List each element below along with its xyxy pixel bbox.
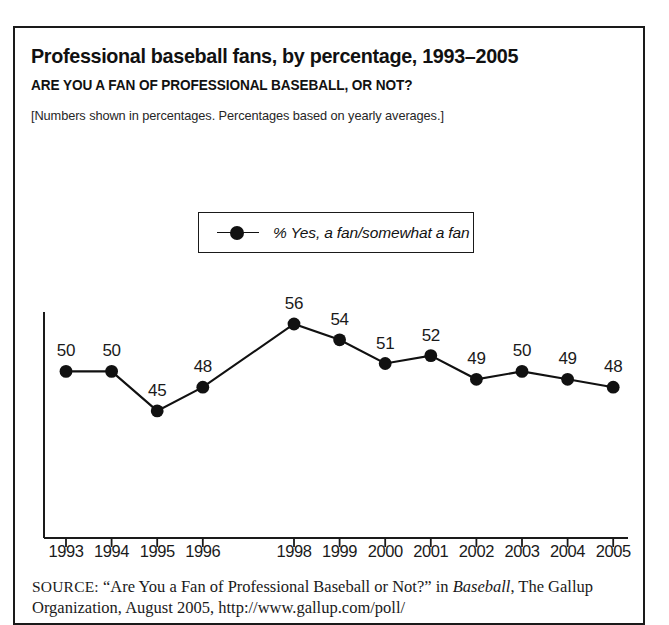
legend-entry-yes-fan: % Yes, a fan/somewhat a fan — [199, 224, 469, 242]
data-value-label: 49 — [452, 349, 500, 369]
chart-title: Professional baseball fans, by percentag… — [31, 44, 608, 68]
data-value-label: 50 — [42, 341, 90, 361]
chart-note: [Numbers shown in percentages. Percentag… — [31, 108, 611, 123]
data-point-marker — [424, 349, 437, 362]
chart-legend: % Yes, a fan/somewhat a fan — [198, 212, 474, 253]
legend-marker-icon — [217, 226, 259, 240]
data-point-marker — [196, 381, 209, 394]
figure-frame: Professional baseball fans, by percentag… — [13, 26, 645, 625]
source-text-part2: , — [510, 577, 514, 596]
data-point-marker — [60, 365, 73, 378]
data-point-marker — [561, 373, 574, 386]
data-value-label: 54 — [316, 310, 364, 330]
figure-number-label: FIGURE 2.2 — [0, 0, 669, 4]
source-label: SOURCE: — [32, 578, 99, 595]
data-point-marker — [288, 318, 301, 331]
data-point-marker — [607, 381, 620, 394]
data-point-marker — [105, 365, 118, 378]
data-value-label: 45 — [133, 381, 181, 401]
data-point-marker — [379, 357, 392, 370]
x-axis-tick-labels: 1993199419951996199819992000200120022003… — [15, 542, 647, 566]
data-point-marker — [333, 333, 346, 346]
legend-label: % Yes, a fan/somewhat a fan — [273, 224, 469, 242]
data-value-label: 49 — [544, 349, 592, 369]
chart-question-subtitle: ARE YOU A FAN OF PROFESSIONAL BASEBALL, … — [31, 77, 605, 93]
source-text-part1: “Are You a Fan of Professional Baseball … — [99, 577, 453, 596]
data-point-marker — [151, 405, 164, 418]
data-value-label: 50 — [88, 341, 136, 361]
data-point-marker — [470, 373, 483, 386]
data-value-label: 48 — [589, 357, 637, 377]
x-axis-tick-label: 2005 — [583, 542, 643, 561]
data-value-label: 50 — [498, 341, 546, 361]
series-markers-yes-fan — [60, 318, 620, 418]
figure-header: Professional baseball fans, by percentag… — [31, 44, 629, 123]
data-value-label: 51 — [361, 334, 409, 354]
source-italic-work: Baseball — [453, 577, 511, 596]
x-axis-tick-label: 1996 — [173, 542, 233, 561]
figure-number-strip: FIGURE 2.2 — [0, 0, 669, 6]
data-value-label: 52 — [407, 326, 455, 346]
data-point-marker — [516, 365, 529, 378]
data-value-label: 48 — [179, 357, 227, 377]
source-note: SOURCE: “Are You a Fan of Professional B… — [32, 576, 631, 618]
data-value-label: 56 — [270, 294, 318, 314]
